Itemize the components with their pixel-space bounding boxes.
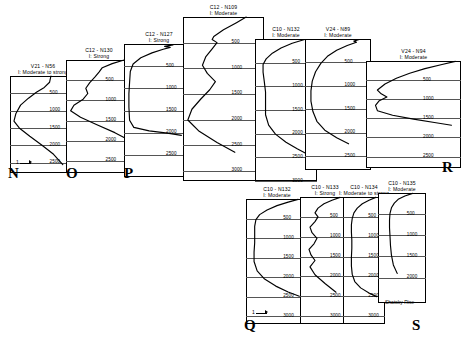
scale-bar-arrowhead <box>265 310 268 314</box>
panel-title: V24 - N94I: Moderate <box>400 48 427 60</box>
panel-intensity-label: I: Strong <box>85 53 113 59</box>
scale-bar-arrowhead <box>29 160 32 164</box>
panel-intensity-label: I: Moderate to strong <box>18 69 68 75</box>
scale-bar-value: 1 <box>252 310 255 315</box>
panel-intensity-label: I: Strong <box>311 190 339 196</box>
region-annotation: Shatsky Rise <box>385 300 414 305</box>
panel-letter-q: Q <box>244 318 256 333</box>
panel-intensity-label: I: Moderate <box>272 32 300 38</box>
intensity-profile-curve <box>66 60 132 173</box>
panel-intensity-label: I: Moderate <box>400 54 427 60</box>
panel-intensity-label: I: Moderate <box>388 186 416 192</box>
panel-title: V24 - N89I: Moderate <box>324 26 351 38</box>
panel-intensity-label: I: Moderate <box>263 192 291 198</box>
panel-intensity-label: I: Moderate <box>324 32 351 38</box>
profile-panel-v24-n89: V24 - N89I: Moderate5001000150020002500 <box>305 39 371 170</box>
panel-title: C10 - N132I: Moderate <box>263 186 291 198</box>
panel-title: C12 - N130I: Strong <box>85 47 113 59</box>
intensity-profile-curve <box>378 193 426 303</box>
panel-title: C10 - N133I: Strong <box>311 184 339 196</box>
intensity-profile-curve <box>305 39 371 170</box>
panel-title: C10 - N135I: Moderate <box>388 180 416 192</box>
profile-panel-v24-n94: V24 - N94I: Moderate5001000150020002500 <box>366 61 461 168</box>
panel-title: C12 - N109I: Moderate <box>210 4 238 16</box>
profile-panel-c10-n132: C10 - N132I: Moderate5001000150020002500… <box>246 199 308 324</box>
profile-panel-c12-n109: C12 - N109I: Moderate5001000150020002500… <box>183 17 264 181</box>
panel-title: C12 - N127I: Strong <box>145 31 173 43</box>
panel-intensity-label: I: Strong <box>145 37 173 43</box>
panel-letter-o: O <box>66 166 78 181</box>
intensity-profile-curve <box>246 199 308 324</box>
figure-canvas: V21 - N56I: Moderate to strong5001000150… <box>0 0 466 359</box>
panel-intensity-label: I: Moderate <box>210 10 238 16</box>
profile-panel-c12-n130: C12 - N130I: Strong5001000150020002500 <box>66 60 132 173</box>
panel-letter-n: N <box>8 166 19 181</box>
panel-title: C10 - N132I: Moderate <box>272 26 300 38</box>
intensity-profile-curve <box>366 61 461 168</box>
panel-title: V21 - N56I: Moderate to strong <box>18 63 68 75</box>
panel-letter-s: S <box>412 318 420 333</box>
profile-panel-c10-n135: C10 - N135I: Moderate500100015002000 <box>378 193 426 303</box>
panel-letter-r: R <box>442 160 453 175</box>
intensity-profile-curve <box>183 17 264 181</box>
scale-bar-value: 1 <box>16 160 19 165</box>
depth-gridline <box>255 181 317 182</box>
panel-letter-p: P <box>124 166 133 181</box>
